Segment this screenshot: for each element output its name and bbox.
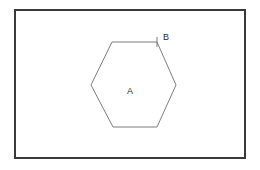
geometry-diagram: A B xyxy=(0,0,260,170)
vertex-label-b: B xyxy=(163,32,169,42)
figure-canvas: A B xyxy=(0,0,260,170)
interior-label-a: A xyxy=(127,86,133,96)
outer-rectangle xyxy=(15,10,245,158)
